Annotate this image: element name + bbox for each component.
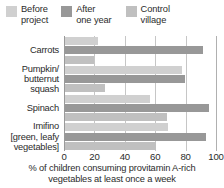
category-label-imifino: Imifino [green, leafy vegetables] bbox=[0, 122, 59, 151]
tick-label-40: 40 bbox=[120, 151, 130, 162]
tick-label-100: 100 bbox=[208, 151, 223, 162]
legend-item-after-one-year: After one year bbox=[61, 4, 111, 25]
bar-imifino-green-leafy-vegetables-after-one-year bbox=[65, 133, 206, 141]
legend-swatch-control-village bbox=[126, 6, 137, 17]
axis-caption: % of children consuming provitamin A-ric… bbox=[0, 163, 224, 185]
legend-swatch-after-one-year bbox=[61, 6, 72, 17]
category-label-pumpkin-butternut-squash: Pumpkin/ butternut squash bbox=[0, 65, 59, 94]
tick-label-80: 80 bbox=[180, 151, 190, 162]
chart-legend: Before project After one year Control vi… bbox=[0, 4, 224, 36]
category-label-spinach: Spinach bbox=[0, 94, 59, 123]
bar-imifino-green-leafy-vegetables-control-village bbox=[65, 142, 156, 150]
bar-carrots-control-village bbox=[65, 56, 94, 64]
bar-spinach-after-one-year bbox=[65, 104, 209, 112]
bar-pumpkin-butternut-squash-before-project bbox=[65, 66, 182, 74]
bar-pumpkin-butternut-squash-after-one-year bbox=[65, 75, 185, 83]
bar-carrots-after-one-year bbox=[65, 46, 203, 54]
legend-label-control-village: Control village bbox=[141, 4, 170, 25]
tick-label-0: 0 bbox=[61, 151, 66, 162]
tick-label-60: 60 bbox=[150, 151, 160, 162]
legend-swatch-before-project bbox=[6, 6, 17, 17]
bar-carrots-before-project bbox=[65, 37, 98, 45]
bar-spinach-before-project bbox=[65, 95, 150, 103]
legend-label-before-project: Before project bbox=[21, 4, 48, 25]
bar-imifino-green-leafy-vegetables-before-project bbox=[65, 123, 168, 131]
category-label-carrots: Carrots bbox=[0, 36, 59, 65]
bar-spinach-control-village bbox=[65, 113, 167, 121]
tick-label-20: 20 bbox=[89, 151, 99, 162]
bar-pumpkin-butternut-squash-control-village bbox=[65, 84, 105, 92]
gridline-100 bbox=[216, 36, 217, 151]
legend-item-before-project: Before project bbox=[6, 4, 48, 25]
legend-label-after-one-year: After one year bbox=[76, 4, 111, 25]
legend-item-control-village: Control village bbox=[126, 4, 170, 25]
plot-area: Carrots Pumpkin/ butternut squash Spinac… bbox=[0, 36, 224, 151]
grouped-bar-chart: Before project After one year Control vi… bbox=[0, 0, 224, 188]
category-axis-labels: Carrots Pumpkin/ butternut squash Spinac… bbox=[0, 36, 62, 151]
bars-container bbox=[64, 36, 217, 151]
